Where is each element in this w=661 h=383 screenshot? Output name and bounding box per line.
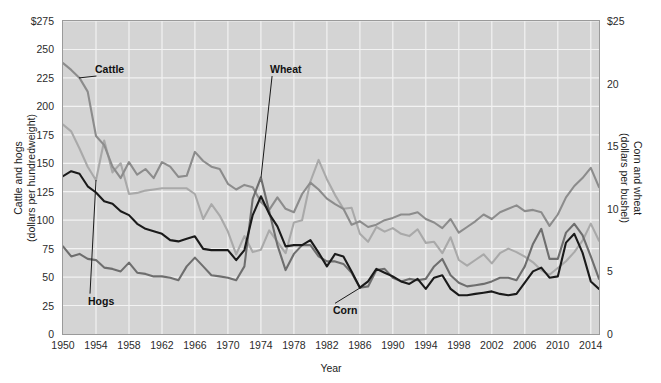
series-label-corn: Corn — [333, 305, 358, 316]
x-tick-2010: 2010 — [546, 340, 569, 351]
right-tick-25: $25 — [607, 16, 625, 27]
leader-line-hogs — [88, 178, 98, 296]
x-tick-1970: 1970 — [216, 340, 239, 351]
leader-line-wheat — [259, 74, 274, 180]
leader-line-cattle — [77, 74, 99, 80]
left-axis-title-line1: Cattle and hogs — [12, 141, 24, 215]
x-axis-title: Year — [320, 362, 341, 375]
right-axis-title-line2: (dollars per bushel) — [619, 133, 631, 223]
data-series-lines — [63, 21, 599, 334]
leader-line-corn — [333, 286, 362, 305]
x-tick-1982: 1982 — [315, 340, 338, 351]
x-tick-1962: 1962 — [150, 340, 173, 351]
x-tick-1974: 1974 — [249, 340, 272, 351]
right-axis-title-line1: Corn and wheat — [632, 140, 644, 214]
left-axis-title-line2: (dollars per hundredweight) — [25, 114, 37, 242]
left-tick-25: 25 — [8, 300, 54, 311]
x-tick-1990: 1990 — [381, 340, 404, 351]
x-tick-1950: 1950 — [51, 340, 74, 351]
left-tick-50: 50 — [8, 272, 54, 283]
x-tick-2006: 2006 — [513, 340, 536, 351]
series-label-cattle: Cattle — [95, 64, 124, 75]
right-tick-5: 5 — [607, 266, 613, 277]
x-tick-2014: 2014 — [579, 340, 602, 351]
x-tick-1994: 1994 — [414, 340, 437, 351]
left-tick-275: $275 — [8, 16, 54, 27]
price-trends-line-chart: 0255075100125150175200225250$275 0510152… — [0, 0, 661, 383]
series-label-wheat: Wheat — [270, 64, 302, 75]
x-tick-1998: 1998 — [447, 340, 470, 351]
left-axis-title: Cattle and hogs (dollars per hundredweig… — [12, 88, 38, 268]
x-tick-1986: 1986 — [348, 340, 371, 351]
series-label-hogs: Hogs — [88, 296, 114, 307]
x-tick-1958: 1958 — [117, 340, 140, 351]
x-tick-1966: 1966 — [183, 340, 206, 351]
plot-area — [62, 20, 600, 335]
x-tick-2002: 2002 — [480, 340, 503, 351]
left-tick-250: 250 — [8, 44, 54, 55]
x-tick-1978: 1978 — [282, 340, 305, 351]
right-axis-title: Corn and wheat (dollars per bushel) — [618, 88, 644, 268]
left-tick-0: 0 — [8, 329, 54, 340]
x-tick-1954: 1954 — [84, 340, 107, 351]
left-tick-225: 225 — [8, 73, 54, 84]
right-tick-0: 0 — [607, 329, 613, 340]
